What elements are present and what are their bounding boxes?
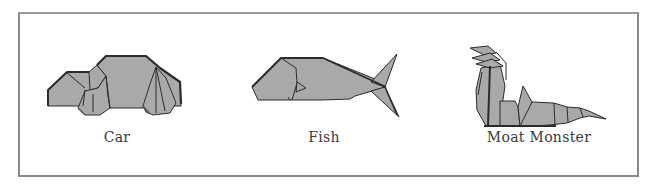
origami-fish-illustration (252, 54, 399, 117)
origami-car-illustration (48, 56, 181, 115)
origami-figures (0, 0, 658, 189)
figure-label-car: Car (104, 129, 131, 145)
figure-label-fish: Fish (308, 129, 340, 145)
origami-moat-monster-illustration (470, 46, 606, 126)
figure-label-moat-monster: Moat Monster (487, 129, 591, 145)
